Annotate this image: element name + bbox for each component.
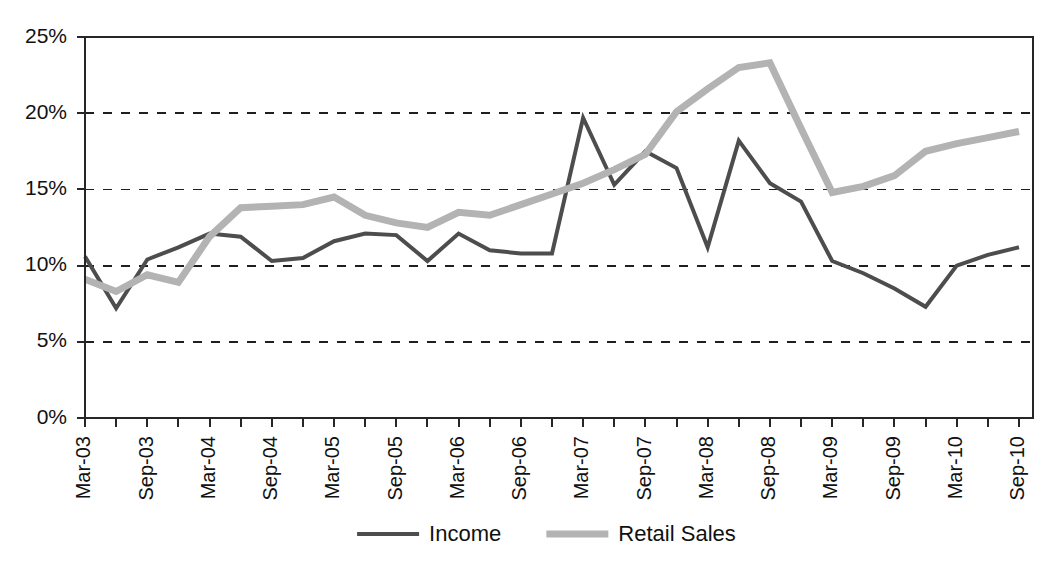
x-axis-tick-label: Mar-05 <box>321 436 343 499</box>
x-axis-tick-label: Mar-09 <box>819 436 841 499</box>
x-axis-tick-label: Sep-03 <box>135 436 157 501</box>
x-axis-tick-marks <box>85 418 1019 427</box>
x-axis-tick-label: Sep-08 <box>757 436 779 501</box>
data-series <box>85 63 1019 308</box>
x-axis-tick-label: Mar-07 <box>570 436 592 499</box>
series-line-retail-sales <box>85 63 1019 292</box>
x-axis-tick-label: Sep-04 <box>259 436 281 501</box>
x-axis-tick-label: Mar-04 <box>197 436 219 499</box>
x-axis-tick-label: Sep-05 <box>384 436 406 501</box>
y-axis-tick-label: 5% <box>37 328 67 351</box>
y-axis-tick-label: 15% <box>25 176 67 199</box>
y-axis-tick-label: 10% <box>25 252 67 275</box>
y-axis-tick-label: 0% <box>37 405 67 428</box>
legend-label-income: Income <box>429 521 501 546</box>
x-axis-tick-label: Sep-07 <box>633 436 655 501</box>
line-chart: 0%5%10%15%20%25% Mar-03Sep-03Mar-04Sep-0… <box>0 0 1059 574</box>
y-axis-tick-label: 20% <box>25 100 67 123</box>
x-axis-tick-label: Mar-03 <box>72 436 94 499</box>
x-axis-tick-label: Mar-06 <box>446 436 468 499</box>
x-axis-tick-label: Mar-08 <box>695 436 717 499</box>
series-line-income <box>85 118 1019 309</box>
y-axis-tick-label: 25% <box>25 24 67 47</box>
legend-label-retail-sales: Retail Sales <box>618 521 735 546</box>
x-axis-tick-label: Sep-09 <box>882 436 904 501</box>
x-axis-tick-labels: Mar-03Sep-03Mar-04Sep-04Mar-05Sep-05Mar-… <box>72 436 1028 501</box>
x-axis-tick-label: Sep-10 <box>1006 436 1028 501</box>
chart-container: 0%5%10%15%20%25% Mar-03Sep-03Mar-04Sep-0… <box>0 0 1059 574</box>
y-axis-tick-labels: 0%5%10%15%20%25% <box>25 24 67 428</box>
x-axis-tick-label: Sep-06 <box>508 436 530 501</box>
x-axis-tick-label: Mar-10 <box>944 436 966 499</box>
chart-legend: IncomeRetail Sales <box>357 521 736 546</box>
